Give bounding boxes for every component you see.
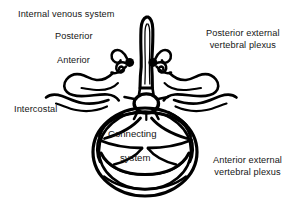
label-anterior: Anterior [57,55,90,67]
label-anterior-external-vertebral-plexus: Anterior external vertebral plexus [213,155,282,178]
right-posterior-venous-tendrils [156,50,172,73]
label-posterior-external-line1: Posterior external [206,28,280,38]
label-intercostal: Intercostal [14,104,57,116]
label-connecting: Connecting [108,128,157,139]
label-anterior-external-line2: vertebral plexus [214,167,280,177]
right-transverse-process [164,73,219,101]
label-internal-venous-system: Internal venous system [18,9,115,21]
label-posterior: Posterior [55,31,93,43]
left-posterior-venous-tendrils [112,50,128,73]
label-anterior-external-line1: Anterior external [213,155,282,165]
left-transverse-process [64,73,119,101]
label-posterior-external-vertebral-plexus: Posterior external vertebral plexus [206,28,280,51]
label-posterior-external-line2: vertebral plexus [210,40,276,50]
spinous-process [140,17,153,88]
anatomical-diagram: Internal venous system Posterior Anterio… [0,0,301,208]
label-system: system [120,152,150,163]
